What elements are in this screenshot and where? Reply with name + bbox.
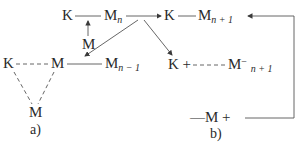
node-m-mid: M — [82, 37, 95, 52]
node-m-bottom: M — [29, 105, 42, 120]
caption-b: b) — [210, 127, 222, 141]
node-mn: Mn — [104, 8, 122, 24]
caption-a: a) — [30, 123, 41, 137]
node-k-row2: K — [3, 56, 14, 71]
node-mn-minus-1: Mn − 1 — [105, 56, 140, 72]
edge-tri-left — [14, 72, 32, 104]
edge-mn-to-kplus — [144, 20, 172, 55]
node-k-top: K — [62, 8, 73, 23]
node-m-plus-bottom: —M + — [190, 110, 231, 125]
node-k-plus: K + — [168, 57, 191, 72]
edge-tri-right — [38, 72, 54, 104]
node-k-b-top: K — [164, 8, 175, 23]
node-m-minus-n-plus-1: M− n + 1 — [228, 57, 272, 73]
node-mn-plus-1: Mn + 1 — [198, 8, 233, 24]
node-m-row2: M — [51, 56, 64, 71]
